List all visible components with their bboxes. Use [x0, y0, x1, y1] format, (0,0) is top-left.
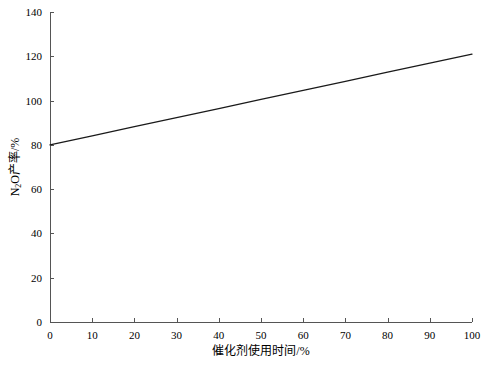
data-series-group [50, 54, 472, 145]
x-tick-label: 40 [213, 330, 224, 341]
y-tick-label: 20 [0, 272, 42, 283]
y-axis-ticks [50, 13, 54, 323]
x-tick-label: 90 [424, 330, 435, 341]
x-tick-label: 70 [340, 330, 351, 341]
x-tick-label: 60 [298, 330, 309, 341]
x-axis-ticks [51, 318, 473, 322]
x-tick-label: 0 [47, 330, 53, 341]
x-tick-label: 80 [382, 330, 393, 341]
y-axis-title-prefix: N [8, 188, 22, 197]
data-line [50, 54, 472, 145]
x-tick-label: 30 [171, 330, 182, 341]
x-tick-label: 20 [129, 330, 140, 341]
x-tick-label: 10 [87, 330, 98, 341]
y-tick-label: 100 [0, 95, 42, 106]
y-axis-title: N2O产率/% [8, 138, 24, 197]
y-tick-label: 140 [0, 7, 42, 18]
y-axis-title-subscript: 2 [14, 184, 23, 188]
chart-container: 020406080100120140 010203040506070809010… [0, 0, 489, 365]
y-tick-label: 40 [0, 228, 42, 239]
x-axis-title: 催化剂使用时间/% [212, 344, 309, 358]
axes-group [50, 12, 472, 322]
y-tick-label: 120 [0, 51, 42, 62]
y-tick-label: 0 [0, 317, 42, 328]
x-tick-label: 100 [464, 330, 481, 341]
x-tick-label: 50 [256, 330, 267, 341]
chart-plot-area [0, 0, 489, 365]
y-axis-title-suffix: O产率/% [8, 138, 22, 184]
